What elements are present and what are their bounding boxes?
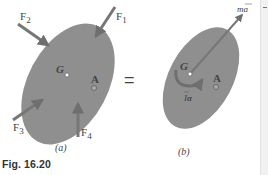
label-f3: F3	[13, 121, 24, 136]
rigid-body-b	[147, 14, 255, 141]
label-a-a: A	[91, 73, 99, 85]
point-a-a	[92, 86, 97, 91]
panel-b-label: (b)	[178, 146, 190, 158]
label-ma: ma	[237, 4, 249, 14]
point-a-b	[214, 85, 219, 90]
page-edge-strip	[260, 0, 268, 175]
label-f2: F2	[20, 10, 31, 25]
label-g-a: G	[56, 63, 64, 75]
edge-tick	[263, 7, 267, 8]
equals-sign: =	[124, 70, 135, 90]
label-a-b: A	[213, 72, 221, 84]
label-f1: F1	[116, 10, 127, 25]
rigid-body-a	[2, 8, 134, 160]
force-arrow-f1	[96, 7, 115, 36]
figure-caption: Fig. 16.20	[2, 158, 51, 170]
panel-a-label: (a)	[55, 142, 67, 154]
label-f4: F4	[81, 126, 92, 141]
figure-16-20: G A F1 F2 F3 F4 (a) = ma Iα	[0, 0, 268, 175]
force-arrow-f2	[18, 24, 48, 45]
diagram-canvas: G A F1 F2 F3 F4 (a) = ma Iα	[0, 0, 268, 175]
point-g-a	[65, 73, 69, 77]
label-g-b: G	[180, 60, 188, 72]
point-g-b	[188, 72, 192, 76]
panel-b: ma Iα G A (b)	[147, 4, 255, 158]
panel-a: G A F1 F2 F3 F4 (a)	[2, 7, 134, 160]
label-i-alpha: Iα	[183, 93, 193, 103]
